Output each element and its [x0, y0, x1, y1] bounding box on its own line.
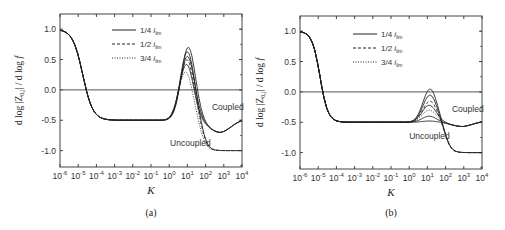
- y-tick-label: -1.0: [41, 146, 56, 156]
- x-tick-label: 10-2: [125, 170, 140, 181]
- x-tick-label: 100: [403, 172, 416, 183]
- x-tick-label: 10-5: [311, 172, 326, 183]
- chart-a-canvas: 10-610-510-410-310-210-11001011021031041…: [0, 0, 252, 230]
- x-tick-label: 103: [217, 170, 230, 181]
- x-tick-label: 10-4: [329, 172, 344, 183]
- y-tick-label: 0.0: [44, 85, 56, 95]
- panel-caption: (b): [385, 207, 397, 219]
- x-axis-title: K: [386, 186, 395, 198]
- x-tick-label: 103: [457, 172, 470, 183]
- chart-panel-b: 10-610-510-410-310-210-11001011021031041…: [253, 0, 505, 230]
- x-tick-label: 10-6: [53, 170, 68, 181]
- x-tick-label: 10-5: [71, 170, 86, 181]
- x-tick-label: 102: [439, 172, 452, 183]
- x-tick-label: 10-6: [293, 172, 308, 183]
- y-tick-label: -0.5: [281, 117, 296, 127]
- legend-label: 1/2 ilim: [381, 44, 403, 54]
- panel-caption: (a): [145, 207, 156, 219]
- y-tick-label: -1.0: [281, 148, 296, 158]
- y-tick-label: 0.5: [44, 55, 56, 65]
- y-tick-label: 1.0: [44, 24, 56, 34]
- y-tick-label: 0.0: [284, 87, 296, 97]
- y-axis-title: d log |Z0,j| / d log f: [255, 57, 266, 127]
- legend-label: 3/4 ilim: [140, 54, 162, 64]
- curve-annotation: Uncoupled: [409, 131, 450, 141]
- y-tick-label: 1.0: [284, 26, 296, 36]
- x-tick-label: 101: [181, 170, 194, 181]
- curve-annotation: Uncoupled: [170, 138, 211, 148]
- y-axis-title: d log |Z0,j| / d log f: [14, 55, 25, 125]
- x-tick-label: 104: [476, 172, 489, 183]
- x-tick-label: 10-1: [384, 172, 399, 183]
- curve-annotation: Coupled: [212, 102, 244, 112]
- x-tick-label: 104: [236, 170, 249, 181]
- x-tick-label: 101: [421, 172, 434, 183]
- y-tick-label: 0.5: [284, 57, 296, 67]
- x-tick-label: 10-3: [107, 170, 122, 181]
- chart-b-canvas: 10-610-510-410-310-210-11001011021031041…: [253, 0, 505, 230]
- plot-frame: [60, 14, 242, 167]
- x-tick-label: 10-4: [89, 170, 104, 181]
- x-tick-label: 100: [163, 170, 176, 181]
- x-tick-label: 10-1: [144, 170, 159, 181]
- y-tick-label: -0.5: [41, 115, 56, 125]
- curve-annotation: Coupled: [452, 104, 484, 114]
- legend-label: 3/4 ilim: [381, 58, 403, 68]
- chart-panel-a: 10-610-510-410-310-210-11001011021031041…: [0, 0, 252, 230]
- legend-label: 1/4 ilim: [140, 26, 162, 36]
- legend-label: 1/4 ilim: [381, 30, 403, 40]
- x-tick-label: 10-2: [365, 172, 380, 183]
- legend-label: 1/2 ilim: [140, 40, 162, 50]
- x-tick-label: 102: [199, 170, 212, 181]
- x-tick-label: 10-3: [347, 172, 362, 183]
- x-axis-title: K: [146, 184, 155, 196]
